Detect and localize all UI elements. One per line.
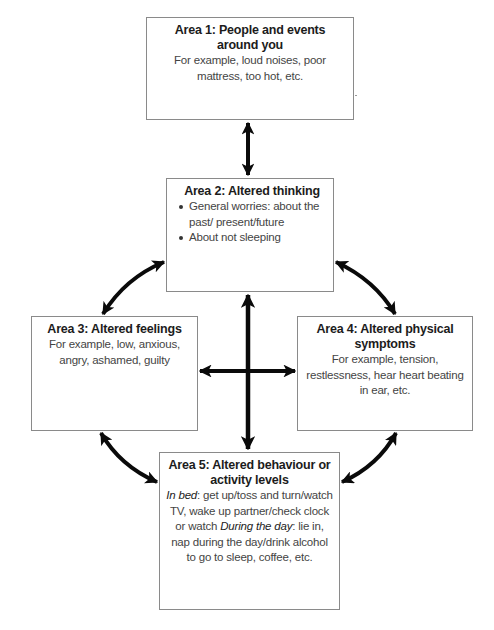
area-2-title: Area 2: Altered thinking bbox=[177, 184, 327, 199]
area-1-body: For example, loud noises, poor mattress,… bbox=[153, 53, 347, 84]
area-4-body: For example, tension, restlessness, hear… bbox=[304, 352, 466, 399]
area-5-box: Area 5: Altered behaviour or activity le… bbox=[159, 452, 340, 610]
area-2-bullet-list: General worries: about the past/ present… bbox=[177, 199, 327, 246]
area-3-box: Area 3: Altered feelings For example, lo… bbox=[31, 316, 198, 431]
area-3-title: Area 3: Altered feelings bbox=[38, 322, 191, 337]
area-1-title: Area 1: People and events around you bbox=[153, 23, 347, 53]
area-4-title: Area 4: Altered physical symptoms bbox=[304, 322, 466, 352]
area-2-box: Area 2: Altered thinking General worries… bbox=[166, 178, 334, 292]
area-2-bullet: About not sleeping bbox=[177, 230, 327, 246]
arrow-area2-area4 bbox=[336, 262, 395, 314]
area-5-body: In bed: get up/toss and turn/watch TV, w… bbox=[166, 488, 333, 566]
area-1-box: Area 1: People and events around you For… bbox=[146, 17, 354, 120]
arrow-area2-area3 bbox=[103, 262, 164, 314]
area-5-title: Area 5: Altered behaviour or activity le… bbox=[166, 458, 333, 488]
area-5-in-bed-label: In bed bbox=[166, 489, 197, 501]
area-4-box: Area 4: Altered physical symptoms For ex… bbox=[297, 316, 473, 431]
area-3-body: For example, low, anxious, angry, ashame… bbox=[38, 337, 191, 368]
area-5-during-day-label: During the day bbox=[220, 520, 292, 532]
arrow-area3-area5 bbox=[101, 433, 157, 482]
area-2-bullet: General worries: about the past/ present… bbox=[177, 199, 327, 230]
scan-speck bbox=[355, 95, 357, 96]
arrow-area4-area5 bbox=[342, 433, 396, 482]
